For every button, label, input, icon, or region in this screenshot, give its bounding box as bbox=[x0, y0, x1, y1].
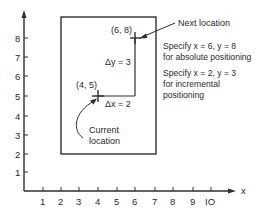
y-axis-arrow-icon bbox=[22, 10, 27, 18]
absolute-note-line: for absolute positioning bbox=[163, 52, 252, 62]
incremental-note-line: positioning bbox=[163, 90, 204, 100]
next-point-label: (6, 8) bbox=[111, 25, 132, 35]
x-ticks: 1 2 3 4 5 6 7 8 9 IO bbox=[40, 187, 215, 207]
y-tick-label: 6 bbox=[15, 71, 20, 82]
x-tick-label: 7 bbox=[152, 196, 157, 207]
x-tick-label: 6 bbox=[132, 196, 137, 207]
y-tick-label: 8 bbox=[15, 33, 20, 44]
y-tick-label: 1 bbox=[15, 167, 20, 178]
y-tick-label: 5 bbox=[15, 91, 20, 102]
incremental-note-line: for incremental bbox=[163, 79, 220, 89]
x-tick-label: 1 bbox=[40, 196, 45, 207]
y-tick-label: 2 bbox=[15, 149, 20, 160]
incremental-path bbox=[98, 38, 135, 96]
current-location-label: location bbox=[89, 136, 120, 146]
current-location-label: Current bbox=[89, 125, 120, 135]
incremental-note-line: Specify x = 2, y = 3 bbox=[163, 68, 236, 78]
x-tick-label: 4 bbox=[95, 196, 100, 207]
x-axis-label: x bbox=[241, 185, 246, 196]
y-tick-label: 4 bbox=[15, 111, 20, 122]
y-tick-label: 3 bbox=[15, 130, 20, 141]
x-tick-label: 5 bbox=[114, 196, 119, 207]
x-tick-label: 8 bbox=[170, 196, 175, 207]
x-tick-label: 3 bbox=[76, 196, 81, 207]
next-location-label: Next location bbox=[178, 18, 230, 28]
x-tick-label: 9 bbox=[190, 196, 195, 207]
delta-y-label: Δy = 3 bbox=[105, 57, 131, 67]
x-tick-label: IO bbox=[205, 196, 215, 207]
y-tick-label: 7 bbox=[15, 52, 20, 63]
x-tick-label: 2 bbox=[58, 196, 63, 207]
absolute-note-line: Specify x = 6, y = 8 bbox=[163, 41, 236, 51]
delta-x-label: Δx = 2 bbox=[105, 99, 131, 109]
current-point-label: (4, 5) bbox=[76, 80, 97, 90]
current-location-arrowhead-icon bbox=[90, 99, 97, 105]
x-axis-arrow-icon bbox=[228, 189, 236, 194]
next-location-arrowhead-icon bbox=[139, 34, 148, 39]
positioning-diagram: x 1 2 3 4 5 6 7 8 1 2 3 4 5 6 bbox=[0, 0, 270, 214]
next-location-leader bbox=[142, 23, 175, 37]
y-ticks: 1 2 3 4 5 6 7 8 bbox=[15, 33, 28, 178]
